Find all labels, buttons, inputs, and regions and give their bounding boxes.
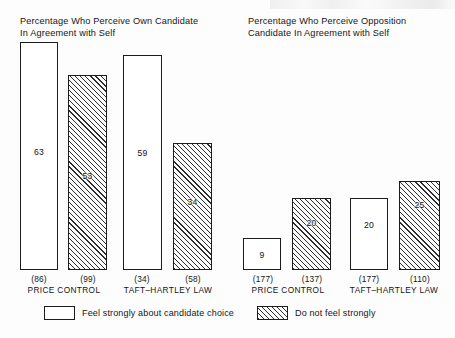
legend-item-not-feel-strongly: Do not feel strongly <box>257 306 376 320</box>
chart-panel-opposition-candidate: Percentage Who Perceive Opposition Candi… <box>228 0 455 338</box>
bar-own-price-control-strong: 63 <box>20 42 58 270</box>
bar-opp-taft-hartley-strong: 20 <box>350 198 388 270</box>
n-label-own-taft-hartley-not-strong: (58) <box>170 274 216 284</box>
bar-value: 9 <box>244 250 280 260</box>
group-label-own-taft-hartley: TAFT–HARTLEY LAW <box>112 285 224 295</box>
bar-own-taft-hartley-not-strong: 34 <box>173 143 212 270</box>
bar-own-taft-hartley-strong: 59 <box>123 55 162 270</box>
n-label-opp-taft-hartley-not-strong: (110) <box>396 274 444 284</box>
chart-panel-own-candidate: Percentage Who Perceive Own Candidate In… <box>0 0 228 338</box>
legend-label-not-feel-strongly: Do not feel strongly <box>295 308 376 318</box>
bar-value: 34 <box>174 197 211 207</box>
bar-value: 25 <box>400 200 439 210</box>
bar-value: 53 <box>69 171 106 181</box>
bar-value: 20 <box>351 220 387 230</box>
group-label-opp-price-control: PRICE CONTROL <box>234 285 342 295</box>
group-label-own-price-control: PRICE CONTROL <box>9 285 119 295</box>
figure-canvas: Percentage Who Perceive Own Candidate In… <box>0 0 455 338</box>
legend-label-feel-strongly: Feel strongly about candidate choice <box>82 308 234 318</box>
bar-opp-taft-hartley-not-strong: 25 <box>399 181 440 270</box>
bar-value: 63 <box>21 147 57 157</box>
group-label-opp-taft-hartley: TAFT–HARTLEY LAW <box>338 285 450 295</box>
n-label-own-price-control-not-strong: (99) <box>65 274 111 284</box>
n-label-own-price-control-strong: (86) <box>16 274 62 284</box>
panel-title-opposition-candidate: Percentage Who Perceive Opposition Candi… <box>248 15 454 40</box>
bar-opp-price-control-not-strong: 20 <box>292 198 331 270</box>
legend-swatch-open <box>44 306 75 320</box>
bar-own-price-control-not-strong: 53 <box>68 75 107 270</box>
n-label-opp-taft-hartley-strong: (177) <box>345 274 393 284</box>
bar-opp-price-control-strong: 9 <box>243 238 281 270</box>
legend-item-feel-strongly: Feel strongly about candidate choice <box>44 306 234 320</box>
bar-value: 59 <box>124 148 161 158</box>
n-label-opp-price-control-not-strong: (137) <box>288 274 336 284</box>
n-label-opp-price-control-strong: (177) <box>239 274 287 284</box>
legend-swatch-hatched <box>257 306 288 320</box>
panel-title-own-candidate: Percentage Who Perceive Own Candidate In… <box>20 15 226 40</box>
bar-value: 20 <box>293 218 330 228</box>
n-label-own-taft-hartley-strong: (34) <box>119 274 165 284</box>
